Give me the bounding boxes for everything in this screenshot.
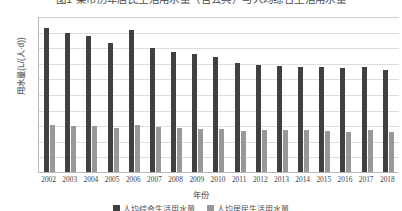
legend-item[interactable]: 人均居民生活用水量 xyxy=(207,203,289,211)
y-axis-title: 用水量(L/(人·d)) xyxy=(14,8,26,124)
x-tick-label: 2007 xyxy=(144,175,165,186)
x-tick-label: 2011 xyxy=(229,175,250,186)
bar-group xyxy=(208,17,229,172)
bar xyxy=(389,132,394,172)
bar xyxy=(262,130,267,172)
bar xyxy=(135,125,140,172)
bar xyxy=(219,129,224,172)
bar xyxy=(368,130,373,172)
bar-group xyxy=(293,17,314,172)
bar xyxy=(340,68,345,172)
x-tick-label: 2012 xyxy=(250,175,271,186)
x-tick-label: 2008 xyxy=(165,175,186,186)
x-tick-label: 2015 xyxy=(313,175,334,186)
bar xyxy=(86,36,91,172)
bar xyxy=(92,126,97,173)
bar xyxy=(283,130,288,172)
x-tick-label: 2009 xyxy=(186,175,207,186)
bar xyxy=(298,67,303,172)
chart-legend: 人均综合生活用水量人均居民生活用水量 xyxy=(0,203,402,211)
bar xyxy=(44,28,49,172)
bar xyxy=(235,63,240,172)
bar xyxy=(241,131,246,172)
bar-group xyxy=(81,17,102,172)
chart-figure: 图1 某市历年居民生活用水量（含公共）与人均综合生活用水量 500 450 40… xyxy=(0,0,402,211)
x-tick-label: 2006 xyxy=(123,175,144,186)
bar xyxy=(383,70,388,172)
bar xyxy=(129,30,134,172)
legend-label: 人均居民生活用水量 xyxy=(217,203,289,211)
x-tick-label: 2017 xyxy=(356,175,377,186)
bar xyxy=(213,57,218,172)
bar xyxy=(65,33,70,173)
legend-label: 人均综合生活用水量 xyxy=(123,203,195,211)
legend-swatch xyxy=(113,205,120,211)
bar xyxy=(325,131,330,172)
bar-group xyxy=(103,17,124,172)
bar-group xyxy=(166,17,187,172)
bar xyxy=(362,67,367,172)
legend-item[interactable]: 人均综合生活用水量 xyxy=(113,203,195,211)
x-tick-label: 2005 xyxy=(102,175,123,186)
bar xyxy=(71,126,76,173)
bar-group xyxy=(124,17,145,172)
bar-group xyxy=(378,17,399,172)
x-tick-label: 2010 xyxy=(207,175,228,186)
x-tick-label: 2013 xyxy=(271,175,292,186)
bar xyxy=(346,132,351,172)
bar xyxy=(156,127,161,172)
bar xyxy=(114,128,119,172)
bar xyxy=(50,125,55,172)
bar-group xyxy=(251,17,272,172)
x-axis-title: 年份 xyxy=(0,188,402,200)
bar-group xyxy=(187,17,208,172)
bar-group xyxy=(230,17,251,172)
bar xyxy=(171,52,176,172)
bar-group xyxy=(272,17,293,172)
x-axis-tick-labels: 2002200320042005200620072008200920102011… xyxy=(38,175,398,186)
bar xyxy=(304,130,309,172)
bar xyxy=(192,54,197,172)
x-tick-label: 2004 xyxy=(80,175,101,186)
x-tick-label: 2002 xyxy=(38,175,59,186)
bar xyxy=(177,128,182,172)
x-tick-label: 2016 xyxy=(334,175,355,186)
x-tick-label: 2003 xyxy=(59,175,80,186)
bar-group xyxy=(145,17,166,172)
bar xyxy=(256,65,261,172)
bar xyxy=(319,67,324,172)
bar-group xyxy=(39,17,60,172)
bar-group xyxy=(60,17,81,172)
bar-series-container xyxy=(39,17,399,172)
bar-group xyxy=(357,17,378,172)
bar xyxy=(150,48,155,172)
legend-swatch xyxy=(207,205,214,211)
x-tick-label: 2018 xyxy=(377,175,398,186)
plot-area xyxy=(38,17,398,173)
bar xyxy=(198,129,203,172)
bar xyxy=(108,43,113,172)
x-tick-label: 2014 xyxy=(292,175,313,186)
bar-group xyxy=(335,17,356,172)
bar-group xyxy=(314,17,335,172)
bar xyxy=(277,66,282,172)
